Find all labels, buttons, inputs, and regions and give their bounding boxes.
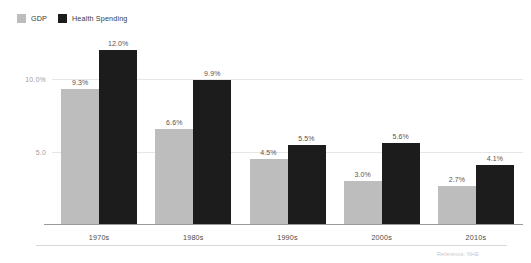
x-axis-tick-label: 2000s	[371, 233, 392, 242]
plot-area: 10.0%5.0 9.3%12.0%1970s6.6%9.9%1980s4.5%…	[52, 32, 523, 225]
x-axis-tick-label: 1980s	[183, 233, 204, 242]
bar-value-label: 9.9%	[204, 70, 220, 77]
bar-slot: 9.9%	[193, 80, 231, 225]
bar-value-label: 4.5%	[260, 149, 276, 156]
bar-slot: 5.5%	[288, 145, 326, 225]
grouped-bar-chart: GDP Health Spending 10.0%5.0 9.3%12.0%19…	[0, 0, 531, 263]
bar-value-label: 3.0%	[355, 171, 371, 178]
bar-value-label: 5.6%	[393, 133, 409, 140]
bar-group: 2.7%4.1%2010s	[429, 32, 523, 225]
bar-group: 6.6%9.9%1980s	[146, 32, 240, 225]
bar-value-label: 2.7%	[449, 176, 465, 183]
bar[interactable]	[382, 143, 420, 225]
bar[interactable]	[438, 186, 476, 225]
bar-value-label: 9.3%	[72, 79, 88, 86]
legend-item-gdp: GDP	[17, 14, 47, 23]
bar-value-label: 6.6%	[166, 119, 182, 126]
bar[interactable]	[476, 165, 514, 225]
bar[interactable]	[250, 159, 288, 225]
y-axis-tick-label: 5.0	[36, 148, 46, 155]
bar[interactable]	[344, 181, 382, 225]
bar[interactable]	[193, 80, 231, 225]
bar-slot: 2.7%	[438, 186, 476, 225]
bar-slot: 4.5%	[250, 159, 288, 225]
bar-value-label: 12.0%	[108, 40, 128, 47]
legend-label-gdp: GDP	[31, 14, 47, 23]
bar[interactable]	[288, 145, 326, 225]
bar[interactable]	[61, 89, 99, 225]
bar-groups: 9.3%12.0%1970s6.6%9.9%1980s4.5%5.5%1990s…	[52, 32, 523, 225]
footer-reference-note: Reference: NHE	[437, 251, 479, 257]
legend-item-health-spending: Health Spending	[58, 14, 127, 23]
bar-group: 9.3%12.0%1970s	[52, 32, 146, 225]
x-axis-tick-label: 1990s	[277, 233, 298, 242]
footer-divider	[36, 245, 507, 246]
bar-group: 3.0%5.6%2000s	[335, 32, 429, 225]
bar-slot: 12.0%	[99, 50, 137, 225]
bar[interactable]	[99, 50, 137, 225]
x-axis-line	[44, 224, 523, 225]
y-axis-tick-label: 10.0%	[25, 75, 46, 82]
legend-swatch-health-spending	[58, 14, 67, 23]
chart-legend: GDP Health Spending	[17, 13, 127, 24]
bar-slot: 3.0%	[344, 181, 382, 225]
bar-value-label: 5.5%	[298, 135, 314, 142]
bar-slot: 5.6%	[382, 143, 420, 225]
legend-swatch-gdp	[17, 14, 26, 23]
bar-slot: 9.3%	[61, 89, 99, 225]
bar-slot: 6.6%	[155, 129, 193, 226]
x-axis-tick-label: 2010s	[466, 233, 487, 242]
bar[interactable]	[155, 129, 193, 226]
bar-value-label: 4.1%	[487, 155, 503, 162]
legend-label-health-spending: Health Spending	[72, 14, 127, 23]
bar-group: 4.5%5.5%1990s	[240, 32, 334, 225]
bar-slot: 4.1%	[476, 165, 514, 225]
x-axis-tick-label: 1970s	[89, 233, 110, 242]
